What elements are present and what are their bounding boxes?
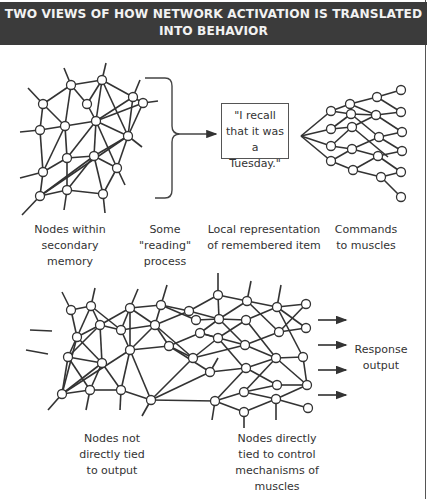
label-line: to output <box>72 463 152 479</box>
label-response-output: Response output <box>346 342 416 374</box>
label-line: Response <box>346 342 416 358</box>
label-nodes-secondary-memory: Nodes within secondary memory <box>20 222 120 270</box>
label-reading-process: Some "reading" process <box>135 222 195 270</box>
label-line: Nodes directly <box>232 431 322 447</box>
label-line: Nodes within <box>20 222 120 238</box>
label-line: process <box>135 254 195 270</box>
label-line: Some <box>135 222 195 238</box>
label-line: of remembered item <box>204 238 324 254</box>
label-line: tied to control <box>232 447 322 463</box>
label-nodes-not-tied: Nodes not directly tied to output <box>72 431 152 479</box>
quote-line-2: that it was a <box>222 124 288 156</box>
label-line: output <box>346 358 416 374</box>
label-line: mechanisms of <box>232 463 322 479</box>
label-line: directly tied <box>72 447 152 463</box>
label-line: Local representation <box>204 222 324 238</box>
remembered-item-box: "I recall that it was a Tuesday." <box>221 103 289 159</box>
label-line: memory <box>20 254 120 270</box>
label-commands-to-muscles: Commands to muscles <box>326 222 406 254</box>
label-line: to muscles <box>326 238 406 254</box>
label-line: muscles <box>232 479 322 495</box>
reading-process-brace <box>145 78 216 198</box>
secondary-memory-nodes <box>36 76 148 201</box>
label-line: secondary <box>20 238 120 254</box>
commands-nodes <box>327 86 407 202</box>
label-line: Nodes not <box>72 431 152 447</box>
quote-line-3: Tuesday." <box>222 156 288 172</box>
label-local-representation: Local representation of remembered item <box>204 222 324 254</box>
label-nodes-directly-tied: Nodes directly tied to control mechanism… <box>232 431 322 495</box>
response-arrows <box>318 320 346 395</box>
quote-line-1: "I recall <box>222 108 288 124</box>
label-line: Commands <box>326 222 406 238</box>
label-line: "reading" <box>135 238 195 254</box>
